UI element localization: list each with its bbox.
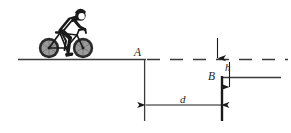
rider-face — [78, 13, 84, 19]
label-point-b: B — [208, 70, 215, 82]
rider-arm — [75, 21, 85, 30]
rider-foot — [67, 54, 73, 55]
label-point-a: A — [133, 46, 142, 58]
bicycle-with-rider — [39, 10, 93, 58]
label-height-h: h — [225, 61, 231, 73]
physics-figure: A B h d — [0, 0, 291, 133]
label-distance-d: d — [180, 93, 186, 105]
rider-shin — [68, 38, 70, 52]
figure-canvas: A B h d — [0, 0, 291, 133]
